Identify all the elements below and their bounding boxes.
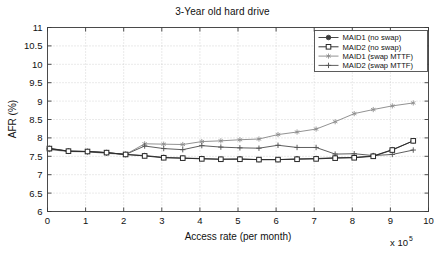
data-point-marker — [411, 147, 416, 152]
data-series — [47, 143, 416, 159]
x-tick-label: 3 — [159, 215, 164, 226]
data-point-marker — [333, 156, 338, 161]
data-point-marker — [123, 152, 128, 157]
data-point-marker — [257, 157, 262, 162]
data-point-marker — [411, 139, 416, 144]
y-tick-label: 7 — [37, 169, 42, 180]
x-tick-label: 7 — [312, 215, 317, 226]
data-point-marker — [295, 157, 300, 162]
data-series — [47, 139, 415, 162]
legend-label: MAID2 (swap MTTF) — [343, 61, 414, 70]
data-point-marker — [180, 147, 185, 152]
x-tick-label: 6 — [273, 215, 278, 226]
chart-legend[interactable]: MAID1 (no swap)MAID2 (no swap)MAID1 (swa… — [315, 31, 428, 72]
data-point-marker — [371, 154, 376, 159]
legend-label: MAID2 (no swap) — [343, 43, 402, 52]
y-axis-title: AFR (%) — [7, 100, 18, 138]
data-series — [47, 139, 415, 162]
y-tick-label: 6.5 — [29, 188, 42, 199]
data-point-marker — [313, 145, 318, 150]
data-point-marker — [218, 144, 223, 149]
data-point-marker — [352, 155, 357, 160]
data-point-marker — [200, 157, 205, 162]
data-point-marker — [66, 149, 71, 154]
data-point-marker — [85, 149, 90, 154]
y-tick-label: 11 — [33, 22, 43, 33]
chart-figure: 3-Year old hard drive 012345678910 66.57… — [0, 0, 445, 256]
x-tick-label: 4 — [197, 215, 202, 226]
data-series — [47, 100, 415, 157]
series-line — [49, 103, 413, 155]
x-tick-label: 8 — [350, 215, 355, 226]
y-tick-label: 8.5 — [29, 114, 42, 125]
data-point-marker — [142, 154, 147, 159]
data-point-marker — [161, 155, 166, 160]
x-axis-exponent-power: 5 — [409, 235, 413, 242]
x-axis-exponent-label: x 10 — [390, 237, 408, 248]
legend-label: MAID1 (swap MTTF) — [343, 52, 414, 61]
data-point-marker — [180, 156, 185, 161]
data-point-marker — [219, 157, 224, 162]
data-point-marker — [161, 146, 166, 151]
x-axis-title: Access rate (per month) — [185, 231, 292, 242]
data-point-marker — [314, 157, 319, 162]
data-point-marker — [326, 35, 331, 40]
y-tick-label: 10 — [32, 59, 43, 70]
data-point-marker — [256, 146, 261, 151]
data-point-marker — [294, 145, 299, 150]
x-tick-label: 9 — [388, 215, 393, 226]
y-tick-label: 9 — [37, 96, 42, 107]
y-tick-label: 8 — [37, 132, 42, 143]
x-tick-label: 0 — [45, 215, 50, 226]
data-point-marker — [276, 157, 281, 162]
x-tick-label: 2 — [121, 215, 126, 226]
y-tick-label: 6 — [37, 206, 42, 217]
x-tick-label: 1 — [83, 215, 88, 226]
y-tick-label: 7.5 — [29, 151, 42, 162]
x-tick-labels: 012345678910 — [45, 215, 434, 226]
data-point-marker — [238, 157, 243, 162]
x-tick-label: 10 — [423, 215, 434, 226]
data-point-marker — [275, 143, 280, 148]
y-tick-labels: 66.577.588.599.51010.511 — [24, 22, 43, 217]
plot-canvas: 012345678910 66.577.588.599.51010.511 Ac… — [0, 0, 445, 256]
data-point-marker — [326, 45, 331, 50]
data-point-marker — [237, 145, 242, 150]
data-point-marker — [333, 119, 338, 124]
data-point-marker — [104, 150, 109, 155]
y-tick-label: 10.5 — [24, 40, 43, 51]
legend-label: MAID1 (no swap) — [343, 33, 402, 42]
y-tick-label: 9.5 — [29, 77, 42, 88]
x-tick-label: 5 — [235, 215, 240, 226]
data-series-layer — [47, 100, 416, 162]
data-point-marker — [390, 148, 395, 153]
